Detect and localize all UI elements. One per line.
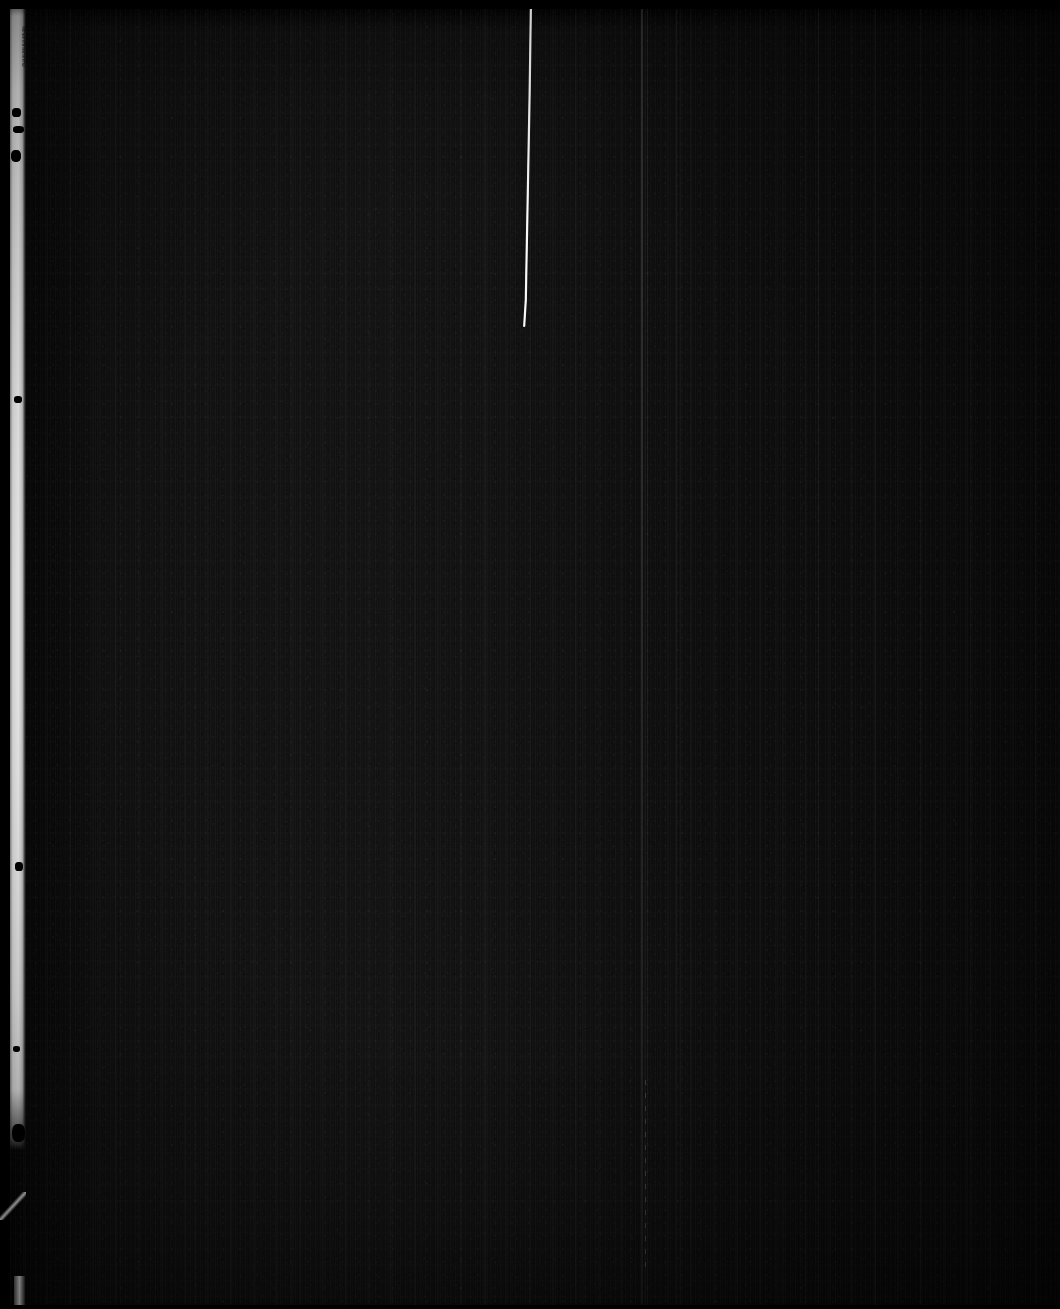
microfilm-scan-frame: Mmwmmlmwmmmw <box>0 0 1060 1309</box>
top-black-border <box>0 0 1060 9</box>
vignette-overlay <box>0 0 1060 1309</box>
bottom-black-border <box>0 1305 1060 1309</box>
